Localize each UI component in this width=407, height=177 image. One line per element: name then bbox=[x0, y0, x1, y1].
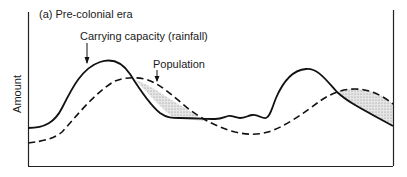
shaded-overshoot-region-1 bbox=[135, 80, 206, 121]
diagram-canvas bbox=[0, 0, 407, 177]
carrying-capacity-curve bbox=[28, 61, 393, 129]
panel-title: (a) Pre-colonial era bbox=[39, 8, 133, 20]
carrying-capacity-arrow bbox=[85, 43, 90, 64]
population-label: Population bbox=[153, 58, 205, 70]
y-axis-label: Amount bbox=[11, 75, 23, 113]
carrying-capacity-label: Carrying capacity (rainfall) bbox=[80, 30, 208, 42]
population-arrow bbox=[155, 70, 160, 82]
population-curve bbox=[28, 78, 393, 143]
